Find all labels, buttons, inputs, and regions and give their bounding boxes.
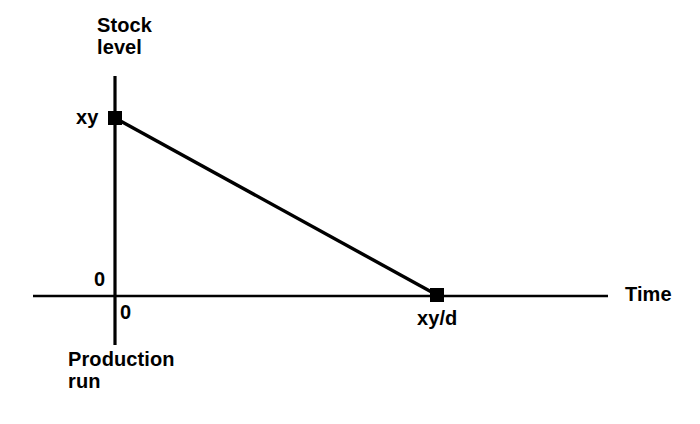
diagram-canvas: Stock level Time xy 0 0 xy/d Production … (0, 0, 700, 424)
data-point-marker-end (430, 288, 444, 302)
x-axis-zero-label: 0 (120, 301, 131, 323)
production-run-annotation: Production run (68, 348, 175, 393)
y-axis-zero-label: 0 (94, 268, 105, 290)
x-axis-title: Time (625, 283, 672, 305)
data-point-marker-start (108, 111, 122, 125)
stock-start-label: xy (76, 106, 98, 128)
y-axis-title: Stock level (97, 14, 152, 59)
depletion-time-label: xy/d (417, 307, 457, 329)
stock-depletion-line (115, 118, 437, 295)
